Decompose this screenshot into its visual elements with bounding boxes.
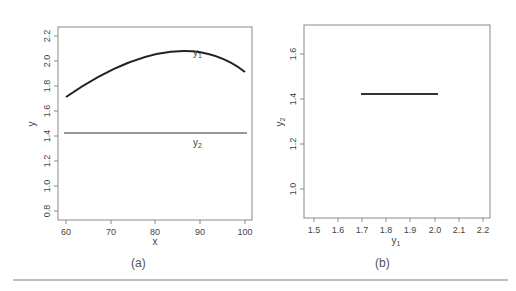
tick-label: 1.7 bbox=[356, 225, 369, 235]
tick-label: 2.0 bbox=[42, 55, 52, 68]
tick-label: 90 bbox=[195, 227, 205, 237]
tick-label: 2.1 bbox=[453, 225, 466, 235]
chart-a: 0.8 1.0 1.2 1.4 1.6 1.8 2.0 2.2 y 60 70 … bbox=[26, 27, 253, 247]
tick-label: 100 bbox=[237, 227, 252, 237]
chart-a-plot-frame bbox=[58, 27, 252, 220]
chart-b-plot-frame bbox=[304, 25, 490, 218]
chart-a-x-axis-label: x bbox=[153, 236, 158, 247]
tick-label: 1.4 bbox=[288, 93, 298, 106]
chart-a-series-y1-line bbox=[66, 51, 245, 97]
tick-label: 60 bbox=[61, 227, 71, 237]
tick-label: 1.6 bbox=[42, 105, 52, 118]
chart-b-y-axis-label: y2 bbox=[274, 117, 286, 126]
chart-b-x-axis bbox=[314, 218, 483, 222]
tick-label: 0.8 bbox=[42, 205, 52, 218]
tick-label: 2.2 bbox=[477, 225, 490, 235]
tick-label: 1.0 bbox=[288, 183, 298, 196]
tick-label: 1.4 bbox=[42, 130, 52, 143]
tick-label: 1.2 bbox=[288, 138, 298, 151]
chart-a-series-y1-label: y1 bbox=[193, 47, 202, 59]
chart-a-y-tick-labels: 0.8 1.0 1.2 1.4 1.6 1.8 2.0 2.2 bbox=[42, 30, 52, 218]
caption-a: (a) bbox=[131, 256, 146, 270]
chart-b-x-axis-label: y1 bbox=[392, 235, 401, 247]
tick-label: 1.6 bbox=[288, 48, 298, 61]
tick-label: 1.9 bbox=[404, 225, 417, 235]
chart-b: 1.0 1.2 1.4 1.6 y2 1.5 1.6 1.7 1.8 1.9 2… bbox=[274, 25, 490, 247]
chart-a-x-axis bbox=[66, 220, 245, 224]
tick-label: 1.5 bbox=[308, 225, 321, 235]
tick-label: 1.0 bbox=[42, 180, 52, 193]
tick-label: 2.0 bbox=[429, 225, 442, 235]
tick-label: 1.8 bbox=[380, 225, 393, 235]
tick-label: 2.2 bbox=[42, 30, 52, 43]
caption-b: (b) bbox=[375, 256, 390, 270]
tick-label: 1.8 bbox=[42, 80, 52, 93]
chart-b-y-axis bbox=[300, 54, 304, 189]
chart-a-y-axis bbox=[54, 36, 58, 211]
chart-a-series-y2-label: y2 bbox=[193, 137, 202, 149]
chart-b-y-tick-labels: 1.0 1.2 1.4 1.6 bbox=[288, 48, 298, 196]
chart-a-y-axis-label: y bbox=[26, 122, 37, 127]
figure: 0.8 1.0 1.2 1.4 1.6 1.8 2.0 2.2 y 60 70 … bbox=[0, 0, 516, 291]
chart-b-x-tick-labels: 1.5 1.6 1.7 1.8 1.9 2.0 2.1 2.2 bbox=[308, 225, 490, 235]
tick-label: 70 bbox=[106, 227, 116, 237]
tick-label: 1.6 bbox=[332, 225, 345, 235]
bottom-rule-divider bbox=[13, 279, 508, 281]
tick-label: 1.2 bbox=[42, 155, 52, 168]
